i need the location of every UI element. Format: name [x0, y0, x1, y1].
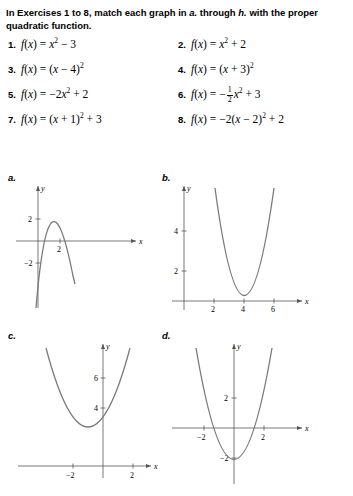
graph-c-ytick-label-4: 4 — [94, 404, 98, 413]
exercise-3: 3.f(x) = (x − 4)2 — [8, 61, 84, 75]
graph-a-x-axis-label: x — [138, 237, 143, 246]
graph-a-y-axis-label: y — [40, 184, 45, 193]
graph-c-x-arrow — [146, 464, 151, 468]
graph-a-curve — [36, 222, 75, 308]
graph-b-xtick-label-6: 6 — [271, 305, 275, 314]
exercise-4: 4.f(x) = (x + 3)2 — [178, 61, 254, 75]
exercise-row: 3.f(x) = (x − 4)2 4.f(x) = (x + 3)2 — [6, 61, 346, 86]
exercise-5: 5.f(x) = −2x2 + 2 — [8, 86, 88, 100]
graph-b-x-arrow — [297, 299, 302, 303]
graph-b-x-axis-label: x — [304, 297, 309, 306]
instructions-ital-h: h. — [238, 7, 246, 18]
exercise-7: 7.f(x) = (x + 1)2 + 3 — [8, 111, 102, 125]
exercise-8: 8.f(x) = −2(x − 2)2 + 2 — [178, 111, 284, 125]
graph-c-curve — [46, 348, 130, 427]
graph-b-ytick-label-2: 2 — [174, 267, 178, 276]
graph-c-xtick-label-neg2: −2 — [66, 471, 75, 480]
instructions-text: In Exercises 1 to 8, match each graph in… — [6, 6, 336, 32]
graph-d-svg: −2 2 2 −2 x y — [162, 336, 327, 491]
graph-d-x-arrow — [297, 426, 302, 430]
graph-c-y-axis-label: y — [105, 342, 110, 351]
exercise-4-function: f(x) = (x + 3)2 — [191, 63, 254, 75]
graph-c-y-arrow — [101, 344, 105, 349]
graph-c-svg: −2 2 4 6 x y — [8, 336, 168, 491]
graph-b: 2 4 6 2 4 x y — [162, 178, 322, 322]
graph-a-x-arrow — [131, 239, 136, 243]
exercise-row: 1.f(x) = x2 − 3 2.f(x) = x2 + 2 — [6, 36, 346, 61]
exercise-8-function: f(x) = −2(x − 2)2 + 2 — [191, 113, 284, 125]
instructions-prefix: In Exercises 1 to 8, match each graph in — [6, 7, 189, 18]
exercise-list: 1.f(x) = x2 − 3 2.f(x) = x2 + 2 3.f(x) =… — [6, 36, 346, 136]
exercise-6-number: 6. — [178, 89, 186, 100]
exercise-6-function: f(x) = −12x2 + 3 — [191, 88, 261, 100]
exercise-3-number: 3. — [8, 64, 16, 75]
graph-b-svg: 2 4 6 2 4 x y — [162, 178, 322, 318]
graph-b-xtick-label-2: 2 — [211, 305, 215, 314]
graph-d: −2 2 2 −2 x y — [162, 336, 327, 495]
graph-d-y-arrow — [232, 344, 236, 349]
graph-a-y-arrow — [36, 186, 40, 191]
graph-d-x-axis-label: x — [304, 424, 309, 433]
exercise-4-number: 4. — [178, 64, 186, 75]
graph-c-x-axis-label: x — [153, 462, 158, 471]
exercise-row: 7.f(x) = (x + 1)2 + 3 8.f(x) = −2(x − 2)… — [6, 111, 346, 136]
exercise-8-number: 8. — [178, 114, 186, 125]
graph-b-curve — [215, 188, 274, 296]
graph-a-xtick-label-2: 2 — [57, 245, 61, 254]
exercise-1-function: f(x) = x2 − 3 — [21, 38, 76, 50]
graph-d-xtick-label-neg2: −2 — [197, 433, 206, 442]
exercise-2-number: 2. — [178, 39, 186, 50]
exercise-3-function: f(x) = (x − 4)2 — [21, 63, 84, 75]
exercise-2-function: f(x) = x2 + 2 — [191, 38, 246, 50]
worksheet-page: In Exercises 1 to 8, match each graph in… — [0, 0, 353, 496]
graph-d-y-axis-label: y — [236, 342, 241, 351]
graph-a-ytick-label-neg2: −2 — [24, 259, 33, 268]
exercise-row: 5.f(x) = −2x2 + 2 6.f(x) = −12x2 + 3 — [6, 86, 346, 111]
graph-c-xtick-label-2: 2 — [130, 471, 134, 480]
graph-b-y-arrow — [182, 186, 186, 191]
exercise-1-number: 1. — [8, 39, 16, 50]
instructions-mid: through — [197, 7, 238, 18]
graph-b-y-axis-label: y — [186, 184, 191, 193]
exercise-5-number: 5. — [8, 89, 16, 100]
instructions-ital-a: a. — [189, 7, 197, 18]
exercise-7-number: 7. — [8, 114, 16, 125]
exercise-6: 6.f(x) = −12x2 + 3 — [178, 86, 261, 104]
exercise-7-function: f(x) = (x + 1)2 + 3 — [21, 113, 102, 125]
graph-a-svg: 2 2 −2 x y — [8, 178, 163, 318]
graph-c: −2 2 4 6 x y — [8, 336, 168, 495]
graph-b-xtick-label-4: 4 — [241, 305, 245, 314]
graph-a-ytick-label-2: 2 — [28, 215, 32, 224]
graph-a: 2 2 −2 x y — [8, 178, 163, 322]
exercise-1: 1.f(x) = x2 − 3 — [8, 36, 76, 50]
exercise-2: 2.f(x) = x2 + 2 — [178, 36, 246, 50]
exercise-5-function: f(x) = −2x2 + 2 — [21, 88, 88, 100]
graph-d-ytick-label-2: 2 — [224, 394, 228, 403]
graph-c-ytick-label-6: 6 — [94, 374, 98, 383]
graph-b-ytick-label-4: 4 — [174, 227, 178, 236]
graph-d-xtick-label-2: 2 — [261, 433, 265, 442]
